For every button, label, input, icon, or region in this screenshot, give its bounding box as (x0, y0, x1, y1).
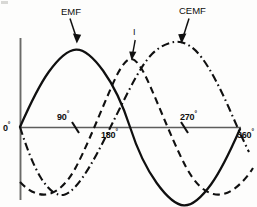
emf-arrow-head (73, 34, 81, 44)
emf-label: EMF (61, 7, 81, 17)
waveform-plot (0, 0, 257, 207)
tick-label-360: 360° (237, 129, 254, 140)
current-label: I (133, 28, 136, 37)
tick-label-90: 90° (57, 111, 69, 122)
tick-label-270: 270° (180, 111, 197, 122)
tick-label-180: 180° (101, 129, 118, 140)
cemf-label: CEMF (179, 6, 206, 16)
tick-label-0: 0° (3, 122, 10, 133)
waveform-figure: 0° 90° 180° 270° 360° EMF I CEMF (0, 0, 257, 207)
